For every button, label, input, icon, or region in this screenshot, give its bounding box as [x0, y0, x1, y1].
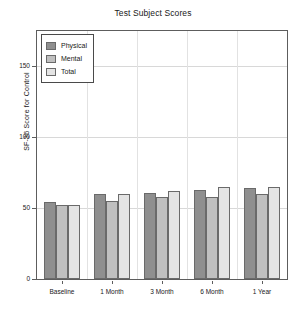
legend-item-physical[interactable]: Physical: [46, 39, 87, 52]
x-tick-label-1-month: 1 Month: [100, 288, 124, 295]
bar-total-3: [218, 187, 230, 279]
x-tick-mark: [262, 281, 263, 284]
y-tick-label: 0: [26, 274, 30, 284]
bar-mental-1: [106, 201, 118, 279]
y-tick-label: 50: [23, 203, 30, 213]
bar-physical-4: [244, 188, 256, 279]
bar-group-6-month: [194, 31, 231, 279]
bar-total-2: [168, 191, 180, 279]
legend-swatch-total: [46, 68, 56, 76]
bar-mental-3: [206, 197, 218, 279]
bar-total-4: [268, 187, 280, 279]
bar-group-1-year: [244, 31, 281, 279]
x-tick-mark: [62, 281, 63, 284]
chart-title: Test Subject Scores: [0, 8, 306, 18]
bar-physical-3: [194, 190, 206, 279]
y-axis-ticks: 050100150: [0, 30, 36, 280]
x-axis-ticks: Baseline1 Month3 Month6 Month1 Year: [36, 281, 288, 307]
x-tick-mark: [162, 281, 163, 284]
bar-mental-4: [256, 194, 268, 279]
bar-total-0: [68, 205, 80, 279]
legend-label: Physical: [61, 42, 87, 49]
x-tick-label-3-month: 3 Month: [150, 288, 174, 295]
legend-swatch-mental: [46, 55, 56, 63]
y-tick-0: 0: [0, 274, 36, 284]
y-tick-label: 150: [19, 61, 30, 71]
y-tick-label: 100: [19, 132, 30, 142]
legend-item-total[interactable]: Total: [46, 65, 87, 78]
bar-physical-0: [44, 202, 56, 279]
chart-container: Test Subject Scores SF-36 Score for Cont…: [0, 0, 306, 311]
y-tick-50: 50: [0, 203, 36, 213]
legend-label: Total: [61, 68, 76, 75]
x-tick-label-1-year: 1 Year: [253, 288, 271, 295]
chart-legend: PhysicalMentalTotal: [41, 34, 94, 83]
legend-swatch-physical: [46, 42, 56, 50]
bar-group-1-month: [94, 31, 131, 279]
bar-mental-0: [56, 205, 68, 279]
bar-total-1: [118, 194, 130, 279]
y-tick-150: 150: [0, 61, 36, 71]
bar-mental-2: [156, 197, 168, 279]
legend-item-mental[interactable]: Mental: [46, 52, 87, 65]
bar-physical-1: [94, 194, 106, 279]
x-tick-label-6-month: 6 Month: [200, 288, 224, 295]
bar-physical-2: [144, 193, 156, 279]
legend-label: Mental: [61, 55, 82, 62]
x-tick-mark: [112, 281, 113, 284]
bar-group-3-month: [144, 31, 181, 279]
x-tick-label-baseline: Baseline: [50, 288, 75, 295]
x-tick-mark: [212, 281, 213, 284]
y-tick-100: 100: [0, 132, 36, 142]
